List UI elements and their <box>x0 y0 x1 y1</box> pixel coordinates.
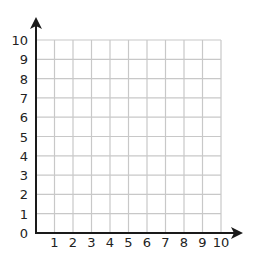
y-tick-label: 8 <box>20 72 28 87</box>
x-tick-label: 7 <box>161 235 169 250</box>
x-tick-label: 4 <box>106 235 114 250</box>
x-tick-label: 1 <box>50 235 58 250</box>
y-tick-label: 0 <box>20 226 28 241</box>
axes <box>30 17 243 239</box>
y-tick-label: 2 <box>20 187 28 202</box>
y-tick-label: 6 <box>20 110 28 125</box>
y-tick-label: 7 <box>20 91 28 106</box>
y-tick-label: 4 <box>20 149 28 164</box>
x-tick-label: 2 <box>69 235 77 250</box>
x-tick-labels: 12345678910 <box>50 235 229 250</box>
grid-lines <box>36 40 221 233</box>
x-tick-label: 6 <box>143 235 151 250</box>
y-tick-labels: 012345678910 <box>11 33 28 241</box>
x-tick-label: 5 <box>124 235 132 250</box>
x-tick-label: 3 <box>87 235 95 250</box>
y-tick-label: 5 <box>20 130 28 145</box>
y-tick-label: 9 <box>20 52 28 67</box>
y-tick-label: 10 <box>11 33 28 48</box>
y-tick-label: 1 <box>20 207 28 222</box>
x-tick-label: 9 <box>198 235 206 250</box>
x-tick-label: 8 <box>180 235 188 250</box>
coordinate-grid: 12345678910 012345678910 <box>0 0 257 259</box>
x-tick-label: 10 <box>213 235 230 250</box>
y-tick-label: 3 <box>20 168 28 183</box>
